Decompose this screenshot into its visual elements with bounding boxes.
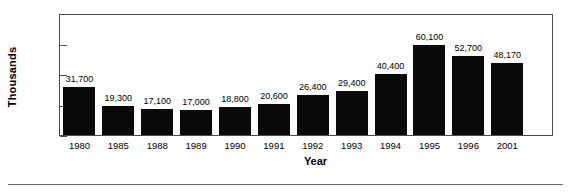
x-tick-label: 1988 [138, 139, 177, 153]
x-tick-label: 1995 [410, 139, 449, 153]
bar[interactable] [491, 63, 523, 135]
bar[interactable] [102, 106, 134, 135]
x-tick-label: 1985 [99, 139, 138, 153]
bar[interactable] [258, 104, 290, 135]
bar[interactable] [452, 56, 484, 135]
x-axis-title-text: Year [304, 155, 327, 167]
x-tick-label: 1994 [371, 139, 410, 153]
x-tick-label: 1993 [332, 139, 371, 153]
x-tick-label: 1980 [60, 139, 99, 153]
bar-group: 31,700 [60, 15, 99, 135]
bar-group: 60,100 [410, 15, 449, 135]
bar-value-label: 60,100 [416, 32, 444, 43]
bar[interactable] [413, 45, 445, 135]
bar-value-label: 17,000 [182, 97, 210, 108]
bar-group: 17,000 [177, 15, 216, 135]
bar[interactable] [336, 91, 368, 135]
bar-group: 52,700 [449, 15, 488, 135]
bar-value-label: 26,400 [299, 82, 327, 93]
bar-value-label: 17,100 [143, 96, 171, 107]
bar[interactable] [219, 107, 251, 135]
bar-group: 40,400 [371, 15, 410, 135]
bottom-divider [8, 184, 563, 185]
bar-group: 19,300 [99, 15, 138, 135]
bar-group: 48,170 [488, 15, 527, 135]
bar-value-label: 52,700 [455, 43, 483, 54]
y-tickmark [60, 136, 67, 137]
bar[interactable] [297, 95, 329, 135]
bar-series: 31,70019,30017,10017,00018,80020,60026,4… [60, 15, 552, 135]
bar[interactable] [180, 110, 212, 136]
y-axis-title: Thousands [2, 18, 22, 136]
bar-group: 26,400 [293, 15, 332, 135]
bar-value-label: 19,300 [105, 93, 133, 104]
y-axis-title-text: Thousands [6, 47, 18, 107]
bar-group: 17,100 [138, 15, 177, 135]
bar-value-label: 31,700 [66, 74, 94, 85]
x-tick-label: 1992 [293, 139, 332, 153]
bar[interactable] [141, 109, 173, 135]
bar-value-label: 40,400 [377, 61, 405, 72]
x-axis-title: Year [0, 155, 571, 167]
bar-chart-figure: Thousands 80 60 40 20 0 31,70019,30017,1… [0, 0, 571, 195]
x-tick-label: 1989 [177, 139, 216, 153]
bar-group: 29,400 [332, 15, 371, 135]
bar-value-label: 20,600 [260, 91, 288, 102]
bar[interactable] [63, 87, 95, 135]
x-tick-label: 1996 [449, 139, 488, 153]
bar-value-label: 18,800 [221, 94, 249, 105]
bar[interactable] [375, 74, 407, 135]
bar-value-label: 29,400 [338, 78, 366, 89]
x-axis-tick-labels: 1980198519881989199019911992199319941995… [60, 139, 552, 153]
bar-value-label: 48,170 [493, 50, 521, 61]
x-tick-label: 1991 [254, 139, 293, 153]
bar-group: 20,600 [254, 15, 293, 135]
x-tick-label: 2001 [488, 139, 527, 153]
x-tick-label: 1990 [216, 139, 255, 153]
bar-group: 18,800 [216, 15, 255, 135]
